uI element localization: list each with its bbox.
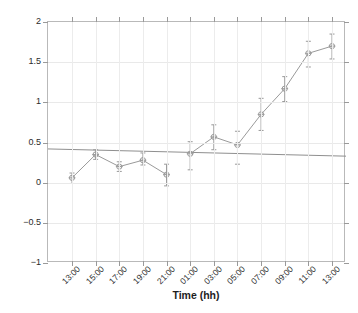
x-axis-tick-label: 19:00 xyxy=(131,264,153,286)
gridline-horizontal xyxy=(48,62,344,63)
gridline-horizontal xyxy=(48,102,344,103)
gridline-vertical xyxy=(285,22,286,261)
y-axis-tick-label: −1 xyxy=(31,257,41,267)
gridline-vertical xyxy=(332,22,333,261)
y-axis-tick xyxy=(43,183,48,184)
gridline-vertical xyxy=(214,22,215,261)
figure-caption xyxy=(8,305,350,313)
x-axis-tick-label: 03:00 xyxy=(202,264,224,286)
y-axis-tick-right xyxy=(344,22,349,23)
gridline-vertical xyxy=(167,22,168,261)
y-axis-tick-right xyxy=(344,62,349,63)
x-axis-tick-label: 05:00 xyxy=(225,264,247,286)
x-axis-title: Time (hh) xyxy=(47,289,345,301)
y-axis-tick-right xyxy=(344,143,349,144)
gridline-vertical xyxy=(261,22,262,261)
y-axis-tick-label: 2 xyxy=(36,16,41,26)
y-axis-tick xyxy=(43,62,48,63)
plot-area xyxy=(47,21,345,262)
x-axis-tick-label: 13:00 xyxy=(320,264,342,286)
gridline-horizontal xyxy=(48,143,344,144)
x-axis-tick-label: 21:00 xyxy=(154,264,176,286)
x-axis-tick-label: 11:00 xyxy=(297,264,319,286)
y-axis-tick-label: 1.5 xyxy=(28,56,41,66)
y-axis-tick xyxy=(43,223,48,224)
y-axis-tick xyxy=(43,143,48,144)
x-axis-tick-top xyxy=(261,17,262,22)
x-axis-tick-label: 09:00 xyxy=(273,264,295,286)
gridline-horizontal xyxy=(48,223,344,224)
y-axis-tick-right xyxy=(344,223,349,224)
x-axis-tick-top xyxy=(96,17,97,22)
x-axis-tick-top xyxy=(143,17,144,22)
y-axis-tick-label: 1 xyxy=(36,96,41,106)
gridline-vertical xyxy=(72,22,73,261)
gridline-vertical xyxy=(143,22,144,261)
y-axis-tick xyxy=(43,102,48,103)
x-axis-tick-top xyxy=(119,17,120,22)
x-axis-tick-top xyxy=(167,17,168,22)
x-axis-tick-label: 17:00 xyxy=(107,264,129,286)
x-axis-tick-top xyxy=(308,17,309,22)
x-axis-tick-top xyxy=(285,17,286,22)
x-axis-tick-top xyxy=(332,17,333,22)
gridline-vertical xyxy=(96,22,97,261)
gridline-vertical xyxy=(119,22,120,261)
y-axis-tick xyxy=(43,22,48,23)
gridline-vertical xyxy=(237,22,238,261)
x-axis-tick-top xyxy=(190,17,191,22)
y-axis-tick-right xyxy=(344,183,349,184)
y-axis-tick-label: 0.5 xyxy=(28,137,41,147)
x-axis-tick-label: 15:00 xyxy=(84,264,106,286)
chart-figure: 21.510.50−0.5−1 Displacement (mm) 13:001… xyxy=(0,0,358,313)
y-axis-tick-right xyxy=(344,102,349,103)
x-axis-tick-top xyxy=(72,17,73,22)
x-axis-tick-top xyxy=(237,17,238,22)
y-axis-tick-label: −0.5 xyxy=(23,217,41,227)
y-axis-tick-label: 0 xyxy=(36,177,41,187)
y-axis-tick-labels: 21.510.50−0.5−1 xyxy=(6,21,41,262)
gridline-horizontal xyxy=(48,183,344,184)
x-axis-tick-label: 01:00 xyxy=(178,264,200,286)
x-axis-tick-label: 13:00 xyxy=(60,264,82,286)
gridline-vertical xyxy=(190,22,191,261)
gridline-vertical xyxy=(308,22,309,261)
x-axis-tick-label: 07:00 xyxy=(249,264,271,286)
x-axis-tick-top xyxy=(214,17,215,22)
